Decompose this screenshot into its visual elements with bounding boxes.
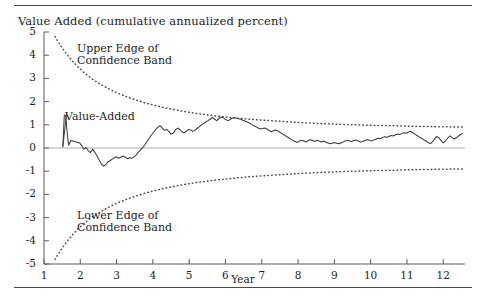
chart-plot-area bbox=[0, 0, 486, 306]
y-tick-label: -5 bbox=[18, 257, 36, 269]
y-tick-label: 2 bbox=[18, 95, 36, 107]
y-tick-label: 5 bbox=[18, 25, 36, 37]
y-tick-label: -3 bbox=[18, 211, 36, 223]
annotation-upper-band: Upper Edge of Confidence Band bbox=[77, 43, 172, 68]
annotation-upper-line2: Confidence Band bbox=[77, 55, 172, 67]
x-axis-title: Year bbox=[0, 273, 486, 285]
annotation-series-label: Value-Added bbox=[65, 111, 135, 123]
chart-svg bbox=[0, 0, 486, 306]
y-tick-label: 3 bbox=[18, 71, 36, 83]
y-tick-label: 4 bbox=[18, 48, 36, 60]
y-tick-label: 1 bbox=[18, 118, 36, 130]
y-tick-label: -4 bbox=[18, 234, 36, 246]
y-tick-label: -2 bbox=[18, 187, 36, 199]
y-tick-label: -1 bbox=[18, 164, 36, 176]
annotation-lower-band: Lower Edge of Confidence Band bbox=[77, 210, 172, 235]
annotation-lower-line2: Confidence Band bbox=[77, 222, 172, 234]
y-tick-label: 0 bbox=[18, 141, 36, 153]
